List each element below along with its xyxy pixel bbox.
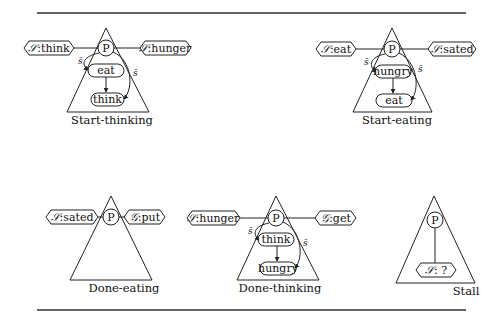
protocol-figure: 𝒮:think 𝒮:hunger P eat think s̄ s̄ Start… bbox=[0, 0, 503, 313]
svg-text:𝒮:sated: 𝒮:sated bbox=[51, 211, 94, 224]
svg-text:𝒮:hunger: 𝒮:hunger bbox=[139, 42, 193, 55]
svg-text:𝒮:think: 𝒮:think bbox=[28, 42, 70, 55]
port-right: 𝒮:hunger bbox=[139, 41, 193, 55]
port-left: 𝒮:think bbox=[24, 41, 74, 55]
panel-done-eating: 𝒮:sated 𝒢:put P Done-eating bbox=[46, 196, 165, 295]
state-label: hungry bbox=[258, 262, 299, 275]
edge-label-right: s̄ bbox=[418, 64, 423, 74]
panel-title: Start-eating bbox=[362, 113, 433, 127]
panel-stall: P 𝒮: ? Stall bbox=[396, 196, 480, 298]
edge-label-left: s̄ bbox=[248, 226, 253, 236]
process-label: P bbox=[431, 214, 439, 227]
port-left: 𝒮:hunger bbox=[187, 211, 241, 225]
port-left: 𝒮:eat bbox=[316, 42, 356, 56]
panel-done-thinking: 𝒮:hunger 𝒢:get P think hungry s̄ s̄ Done… bbox=[187, 196, 356, 295]
state-label: eat bbox=[97, 64, 115, 77]
process-label: P bbox=[388, 43, 396, 56]
port-bottom: 𝒮: ? bbox=[416, 263, 456, 277]
svg-text:𝒮:eat: 𝒮:eat bbox=[321, 43, 352, 56]
state-label: think bbox=[262, 233, 291, 246]
port-right: 𝒢:put bbox=[124, 210, 165, 224]
edge-label-left: s̄ bbox=[78, 56, 83, 66]
svg-text:𝒮: ?: 𝒮: ? bbox=[425, 264, 447, 277]
panel-start-eating: 𝒮:eat 𝒮:sated P hungry eat s̄ s̄ Start-e… bbox=[316, 28, 476, 127]
edge-label-left: s̄ bbox=[364, 57, 369, 67]
state-label: hungry bbox=[373, 65, 414, 78]
port-right: 𝒮:sated bbox=[428, 42, 476, 56]
panel-title: Done-eating bbox=[89, 281, 161, 295]
process-label: P bbox=[102, 42, 110, 55]
process-label: P bbox=[272, 212, 280, 225]
panel-start-thinking: 𝒮:think 𝒮:hunger P eat think s̄ s̄ Start… bbox=[24, 28, 192, 127]
svg-text:𝒮:hunger: 𝒮:hunger bbox=[187, 212, 241, 225]
svg-text:𝒮:sated: 𝒮:sated bbox=[431, 43, 474, 56]
svg-text:𝒢:get: 𝒢:get bbox=[321, 212, 351, 225]
port-right: 𝒢:get bbox=[315, 211, 356, 225]
port-left: 𝒮:sated bbox=[46, 210, 98, 224]
state-label: eat bbox=[385, 94, 403, 107]
state-label: think bbox=[93, 93, 122, 106]
edge-label-right: s̄ bbox=[133, 68, 138, 78]
process-label: P bbox=[107, 211, 115, 224]
svg-text:𝒢:put: 𝒢:put bbox=[130, 211, 161, 224]
edge-label-right: s̄ bbox=[303, 238, 308, 248]
panel-title: Stall bbox=[453, 284, 480, 298]
panel-title: Start-thinking bbox=[71, 113, 154, 127]
panel-title: Done-thinking bbox=[239, 281, 322, 295]
